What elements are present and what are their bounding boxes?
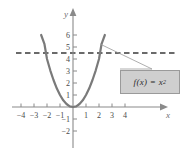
svg-text:3: 3 (66, 67, 70, 76)
y-axis-ticks (73, 35, 77, 131)
svg-text:2: 2 (97, 111, 101, 120)
svg-text:4: 4 (123, 111, 127, 120)
svg-text:−2: −2 (61, 127, 70, 136)
callout-leader-lines (100, 44, 152, 69)
svg-text:3: 3 (110, 111, 114, 120)
svg-text:−2: −2 (43, 111, 52, 120)
svg-text:4: 4 (66, 55, 70, 64)
svg-text:5: 5 (66, 43, 70, 52)
function-label: f(x) = x (134, 77, 163, 87)
y-axis-label: y (63, 9, 68, 19)
svg-text:1: 1 (66, 91, 70, 100)
svg-text:−1: −1 (61, 115, 70, 124)
function-callout-box: f(x) = x2 (120, 70, 180, 94)
parabola-figure: y x −4 −3 −2 −1 1 2 3 4 6 5 4 3 2 1 −1 −… (0, 0, 184, 155)
svg-text:−4: −4 (17, 111, 26, 120)
svg-text:1: 1 (84, 111, 88, 120)
svg-text:−3: −3 (30, 111, 39, 120)
x-tick-labels: −4 −3 −2 −1 1 2 3 4 (17, 111, 127, 120)
x-axis-label: x (165, 110, 170, 120)
y-tick-labels: 6 5 4 3 2 1 −1 −2 (61, 31, 70, 136)
function-exponent: 2 (163, 79, 166, 85)
svg-text:6: 6 (66, 31, 70, 40)
y-axis-arrow-icon (70, 8, 77, 16)
svg-text:2: 2 (66, 79, 70, 88)
